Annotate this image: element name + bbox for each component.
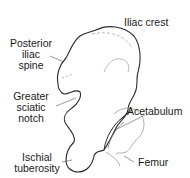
label-ischial-tuberosity: Ischial tuberosity: [10, 152, 64, 174]
inner-iliac-line: [92, 33, 132, 48]
femur-shaft: [106, 152, 120, 166]
leader-femur: [124, 156, 134, 162]
inner-ridge: [104, 59, 129, 72]
leader-greater-sciatic-notch: [56, 98, 76, 106]
acetabulum-inner: [108, 122, 124, 148]
label-greater-sciatic-notch: Greater sciatic notch: [8, 91, 54, 124]
label-femur: Femur: [138, 157, 168, 168]
bone-outline: [57, 27, 140, 172]
label-acetabulum: Acetabulum: [127, 106, 182, 117]
ridge-detail: [62, 74, 72, 78]
label-iliac-crest: Iliac crest: [124, 17, 168, 28]
label-posterior-iliac-spine: Posterior iliac spine: [6, 38, 56, 71]
